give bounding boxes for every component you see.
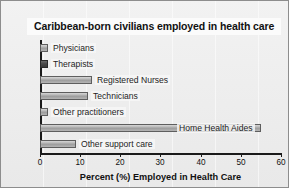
bar-other-support-care: [40, 140, 76, 148]
x-tick-label: 10: [75, 158, 84, 167]
bar-row: Physicians: [40, 40, 96, 56]
chart-card: Caribbean-born civilians employed in hea…: [0, 0, 289, 188]
bar-label-other-support-care: Other support care: [79, 139, 155, 149]
bar-row: Other support care: [40, 136, 155, 152]
bar-row: Technicians: [40, 88, 140, 104]
bar-therapists: [40, 60, 48, 68]
x-tick-label: 0: [38, 158, 43, 167]
bar-row: Therapists: [40, 56, 95, 72]
bar-label-home-health-aides: Home Health Aides: [177, 123, 255, 133]
x-tick: [80, 153, 81, 157]
x-tick-label: 20: [115, 158, 124, 167]
x-tick-label: 40: [196, 158, 205, 167]
x-tick: [281, 153, 282, 157]
chart-title: Caribbean-born civilians employed in hea…: [27, 18, 281, 35]
x-tick: [160, 153, 161, 157]
bar-label-technicians: Technicians: [91, 91, 140, 101]
x-axis-title: Percent (%) Employed in Health Care: [40, 172, 281, 182]
x-tick: [40, 153, 41, 157]
x-tick-label: 50: [236, 158, 245, 167]
x-tick-label: 60: [276, 158, 285, 167]
x-tick: [120, 153, 121, 157]
x-tick-label: 30: [155, 158, 164, 167]
bar-label-therapists: Therapists: [51, 59, 95, 69]
bar-label-registered-nurses: Registered Nurses: [95, 75, 170, 85]
bar-physicians: [40, 44, 48, 52]
bar-registered-nurses: [40, 76, 92, 84]
x-tick: [201, 153, 202, 157]
bar-row: Other practitioners: [40, 104, 126, 120]
plot-area: Physicians Therapists Registered Nurses …: [40, 40, 281, 153]
bar-label-other-practitioners: Other practitioners: [51, 107, 126, 117]
bar-row: Registered Nurses: [40, 72, 170, 88]
x-tick: [241, 153, 242, 157]
bar-row: Home Health Aides: [40, 120, 255, 136]
bar-label-physicians: Physicians: [51, 43, 96, 53]
bar-technicians: [40, 92, 88, 100]
bar-other-practitioners: [40, 108, 48, 116]
